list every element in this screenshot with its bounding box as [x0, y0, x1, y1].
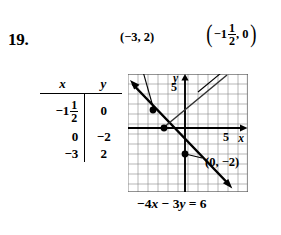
cell-x-value: −3: [40, 145, 85, 162]
callout-point-a: (−3, 2): [120, 30, 154, 45]
equation-coef-x: −4: [137, 196, 151, 211]
x-axis-label: x: [237, 132, 244, 144]
exercise-figure: 19. x y −112 0 0 −2 −3 2: [0, 0, 281, 235]
mixed-number-whole: −1: [55, 103, 69, 119]
cell-y-value: −2: [85, 128, 122, 145]
table-row: −112 0: [40, 94, 122, 128]
graph-svg: 5 5 y x: [128, 74, 248, 192]
fraction: 12: [70, 99, 78, 124]
equation-var-x: x: [151, 196, 158, 211]
equation-rhs: 6: [200, 196, 207, 211]
cell-y-value: 0: [85, 94, 122, 128]
right-paren: ): [250, 24, 256, 44]
fraction-denominator: 2: [228, 34, 236, 47]
table-row: 0 −2: [40, 128, 122, 145]
problem-number: 19.: [8, 30, 28, 50]
fraction-numerator: 1: [228, 22, 236, 34]
coordinate-graph: 5 5 y x: [128, 74, 248, 192]
left-paren: (: [206, 24, 212, 44]
equation-label: −4x − 3y = 6: [137, 196, 207, 212]
y-axis-label: y: [171, 74, 179, 85]
pair-second-value: 0: [242, 27, 248, 42]
grid-lines: [128, 74, 248, 192]
point-marker-b: [182, 151, 189, 158]
mixed-number-whole: −1: [214, 27, 227, 42]
table-header-y: y: [85, 76, 122, 92]
table-header-x: x: [40, 76, 85, 92]
callout-point-c: (−112, 0): [205, 22, 257, 47]
xy-table: x y −112 0 0 −2 −3 2: [40, 76, 122, 162]
cell-x-value: −112: [40, 94, 85, 128]
table-row: −3 2: [40, 145, 122, 162]
point-marker-c: [161, 125, 168, 132]
fraction-numerator: 1: [70, 99, 78, 111]
x-tick-label-5: 5: [223, 130, 229, 144]
equation-var-y: y: [179, 196, 185, 211]
solution-line: [130, 80, 232, 189]
callout-point-b: (0, −2): [205, 155, 239, 170]
cell-y-value: 2: [85, 145, 122, 162]
leader-lines: [142, 74, 232, 158]
fraction: 12: [228, 22, 236, 47]
equation-equals: =: [189, 196, 197, 211]
fraction-denominator: 2: [70, 111, 78, 124]
equation-operator: −: [162, 196, 170, 211]
value-table: x y −112 0 0 −2 −3 2: [40, 76, 122, 162]
table-header-row: x y: [40, 76, 122, 92]
cell-x-value: 0: [40, 128, 85, 145]
